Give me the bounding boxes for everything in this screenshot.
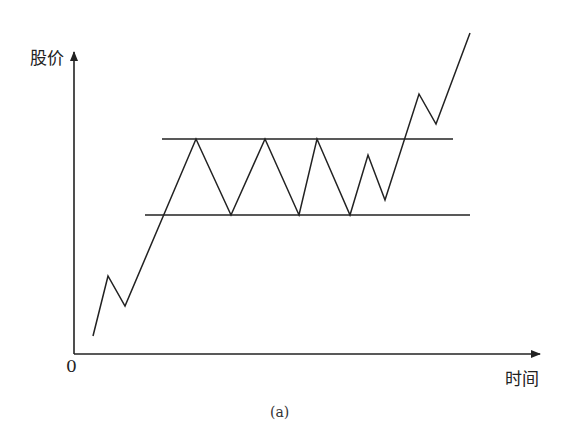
- x-axis-label: 时间: [505, 365, 539, 390]
- figure-caption: (a): [270, 404, 289, 420]
- chart-canvas: [0, 0, 587, 436]
- price-line: [93, 33, 470, 336]
- y-axis-label: 股价: [30, 44, 64, 69]
- stock-pattern-figure: 股价 时间 0 (a): [0, 0, 587, 436]
- origin-label: 0: [66, 356, 77, 376]
